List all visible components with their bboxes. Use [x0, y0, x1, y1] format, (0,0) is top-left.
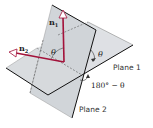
label-theta-planes: θ — [98, 50, 103, 59]
normal-vector-1 — [63, 17, 64, 62]
supplementary-arc-arrow — [86, 74, 90, 78]
normal-vector-2-arrowhead — [9, 49, 17, 57]
label-plane-2: Plane 2 — [79, 105, 107, 114]
label-theta-normals: θ — [51, 48, 56, 57]
label-supplementary-angle: 180° − θ — [91, 81, 125, 90]
planes-diagram: n1 n2 θ θ 180° − θ Plane 1 Plane 2 — [0, 0, 153, 128]
planes-svg: n1 n2 θ θ 180° − θ Plane 1 Plane 2 — [0, 0, 153, 128]
label-plane-1: Plane 1 — [113, 63, 141, 72]
label-n2: n2 — [19, 43, 29, 54]
